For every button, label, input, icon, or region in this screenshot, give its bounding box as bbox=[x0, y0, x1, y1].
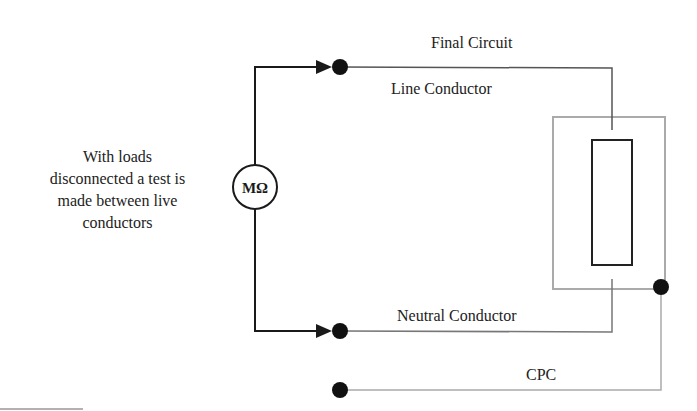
description-line: made between live bbox=[0, 190, 235, 212]
neutral-terminal bbox=[332, 323, 348, 339]
cpc-label: CPC bbox=[526, 365, 556, 385]
test-lead-neutral bbox=[255, 209, 318, 331]
description-line: With loads bbox=[0, 146, 235, 168]
neutral-conductor-label: Neutral Conductor bbox=[397, 306, 517, 326]
load-resistor bbox=[592, 140, 632, 265]
line-conductor-label: Line Conductor bbox=[391, 79, 492, 99]
arrow-head-neutral bbox=[316, 324, 332, 338]
line-terminal bbox=[332, 59, 348, 75]
meter-symbol: MΩ bbox=[242, 180, 268, 196]
test-description: With loads disconnected a test is made b… bbox=[0, 146, 235, 234]
test-lead-line bbox=[255, 67, 318, 165]
arrow-head-line bbox=[316, 60, 332, 74]
description-line: conductors bbox=[0, 212, 235, 234]
load-enclosure bbox=[553, 117, 665, 289]
cpc-wire bbox=[340, 287, 661, 390]
final-circuit-label: Final Circuit bbox=[431, 33, 512, 53]
description-line: disconnected a test is bbox=[0, 168, 235, 190]
enclosure-earth-terminal bbox=[653, 279, 669, 295]
cpc-terminal bbox=[332, 382, 348, 398]
